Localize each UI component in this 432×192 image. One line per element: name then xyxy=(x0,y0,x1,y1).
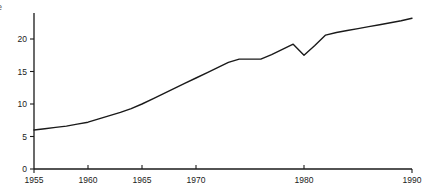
y-axis-tick-label: 15 xyxy=(18,67,28,77)
x-axis-tick-labels: 195519601965197019801990 xyxy=(25,175,422,185)
line-chart: e 05101520 195519601965197019801990 xyxy=(0,0,432,192)
x-axis-tick-label: 1970 xyxy=(187,175,206,185)
y-axis-tick-label: 0 xyxy=(22,164,27,174)
data-series-line xyxy=(34,18,412,130)
x-axis-tick-label: 1960 xyxy=(79,175,98,185)
y-axis-tick-label: 10 xyxy=(18,99,28,109)
chart-canvas: 05101520 195519601965197019801990 xyxy=(0,0,432,192)
y-axis-tick-labels: 05101520 xyxy=(18,34,28,174)
x-axis-tick-label: 1980 xyxy=(295,175,314,185)
y-axis-tick-label: 5 xyxy=(22,132,27,142)
y-axis-tick-label: 20 xyxy=(18,34,28,44)
x-axis-tick-label: 1955 xyxy=(25,175,44,185)
plot-area: 05101520 195519601965197019801990 xyxy=(18,13,422,185)
x-axis-tick-label: 1965 xyxy=(133,175,152,185)
x-axis-tick-label: 1990 xyxy=(403,175,422,185)
